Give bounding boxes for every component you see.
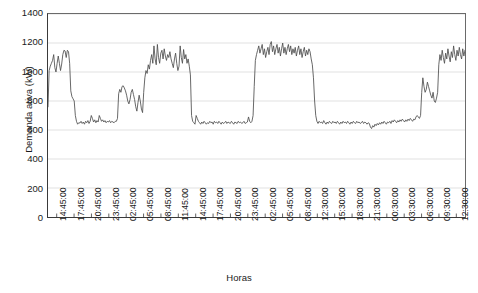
x-axis-tick-label: 21:30:00 <box>373 188 382 221</box>
x-axis-tick-label: 06:30:00 <box>426 188 435 221</box>
x-axis-tick-label: 08:45:00 <box>164 188 173 221</box>
x-axis-tick-label: 12:30:00 <box>461 188 470 221</box>
demand-series-line <box>48 42 465 129</box>
x-axis-tick-label: 00:30:00 <box>391 188 400 221</box>
y-axis-tick-label: 400 <box>9 155 43 165</box>
x-axis-tick-labels: 14:45:0017:45:0020:45:0023:45:0002:45:00… <box>47 219 466 275</box>
y-axis-tick-label: 200 <box>9 184 43 194</box>
x-axis-tick-label: 23:45:00 <box>251 188 260 221</box>
x-axis-tick-label: 23:45:00 <box>112 188 121 221</box>
x-axis-tick-label: 20:45:00 <box>94 188 103 221</box>
y-axis-tick-label: 1000 <box>9 67 43 77</box>
x-axis-tick-label: 14:45:00 <box>59 188 68 221</box>
x-axis-tick-label: 03:30:00 <box>408 188 417 221</box>
x-axis-tick-label: 08:45:00 <box>304 188 313 221</box>
x-axis-tick-label: 18:30:00 <box>356 188 365 221</box>
y-axis-tick-labels: 0200400600800100012001400 <box>8 0 43 293</box>
y-axis-tick-label: 1400 <box>9 8 43 18</box>
x-axis-tick-label: 02:45:00 <box>129 188 138 221</box>
x-axis-tick-label: 05:45:00 <box>146 188 155 221</box>
gridlines <box>48 14 465 188</box>
x-axis-tick-label: 17:45:00 <box>216 188 225 221</box>
line-chart-svg <box>48 14 465 217</box>
x-axis-tick-label: 15:30:00 <box>338 188 347 221</box>
x-axis-tick-label: 20:45:00 <box>234 188 243 221</box>
x-axis-tick-label: 12:30:00 <box>321 188 330 221</box>
y-axis-tick-label: 0 <box>9 213 43 223</box>
y-axis-tick-label: 800 <box>9 96 43 106</box>
x-axis-tick-label: 09:30:00 <box>443 188 452 221</box>
x-axis-tick-label: 17:45:00 <box>77 188 86 221</box>
x-axis-tick-label: 05:45:00 <box>286 188 295 221</box>
x-axis-tick-label: 02:45:00 <box>269 188 278 221</box>
x-axis-title: Horas <box>0 272 478 283</box>
x-axis-tick-label: 11:45:00 <box>181 188 190 221</box>
y-axis-tick-label: 1200 <box>9 38 43 48</box>
y-axis-tick-label: 600 <box>9 125 43 135</box>
chart-container: Demanda ativa (kW) 020040060080010001200… <box>0 0 478 293</box>
x-axis-tick-label: 14:45:00 <box>199 188 208 221</box>
